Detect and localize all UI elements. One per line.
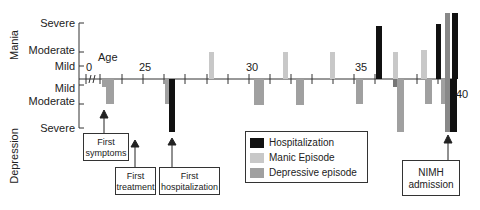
legend-manic: Manic Episode [250,150,363,165]
severe-top-label: Severe [40,17,75,29]
severe-bottom-label: Severe [40,122,75,134]
first-hospitalization-annotation: First hospitalization [159,167,220,195]
hospitalization-swatch [250,138,264,148]
tick-0: 0 [86,61,92,73]
legend: Hospitalization Manic Episode Depressive… [245,131,368,183]
depression-label: Depression [8,128,20,184]
legend-manic-label: Manic Episode [269,152,335,163]
legend-depressive-label: Depressive episode [269,167,357,178]
legend-hospitalization-label: Hospitalization [269,137,334,148]
age-label: Age [98,51,118,63]
legend-depressive: Depressive episode [250,165,363,180]
moderate-top-label: Moderate [29,44,75,56]
manic-swatch [250,153,264,163]
moderate-bottom-label: Moderate [29,95,75,107]
tick-40: 40 [456,88,468,100]
tick-25: 25 [139,61,151,73]
tick-35: 35 [355,61,367,73]
mania-label: Mania [8,29,20,60]
mild-top-label: Mild [55,60,75,72]
first-treatment-annotation: First treatment [115,167,156,195]
depressive-swatch [250,168,264,178]
tick-30: 30 [246,61,258,73]
mild-bottom-label: Mild [55,82,75,94]
legend-hospitalization: Hospitalization [250,135,363,150]
depressive-bars [102,79,451,132]
first-symptoms-annotation: First symptoms [83,133,129,161]
nimh-admission-annotation: NIMH admission [402,160,460,196]
